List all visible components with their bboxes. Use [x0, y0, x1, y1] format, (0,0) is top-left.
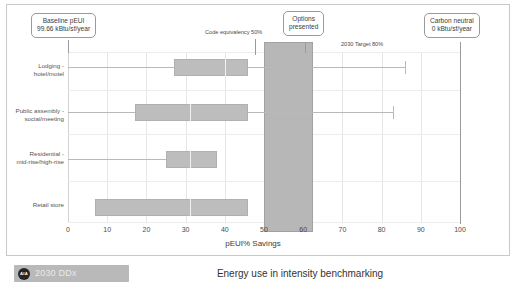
x-tick-label-30: 30: [182, 226, 190, 233]
gridline-90: [421, 52, 422, 222]
gridline-40: [225, 52, 226, 222]
category-label-assembly: Public assembly - social/meeting: [2, 107, 64, 122]
x-tick-label-60: 60: [299, 226, 307, 233]
aia-logo-icon: AIA: [18, 268, 30, 280]
chart-card-frame: [6, 4, 510, 256]
median-line: [225, 59, 226, 76]
callout-options-presented: Options presented: [283, 11, 324, 36]
category-label-lodging-line2: hotel/motel: [2, 70, 64, 78]
callout-baseline-line2: 99.66 kBtu/sf/year: [37, 25, 90, 33]
gridline-20: [146, 52, 147, 222]
box-retail: [95, 199, 248, 216]
x-tick-label-70: 70: [338, 226, 346, 233]
category-label-retail-line1: Retail store: [2, 201, 64, 209]
x-tick-label-20: 20: [142, 226, 150, 233]
category-label-residential-line1: Residential -: [2, 150, 64, 158]
x-tick-label-50: 50: [260, 226, 268, 233]
x-tick-label-90: 90: [417, 226, 425, 233]
callout-carbon-line2: 0 kBtu/sf/year: [430, 25, 474, 33]
box-residential: [166, 151, 217, 168]
category-label-assembly-line2: social/meeting: [2, 115, 64, 123]
callout-carbon-neutral: Carbon neutral 0 kBtu/sf/year: [424, 13, 480, 38]
category-label-retail: Retail store: [2, 201, 64, 209]
category-label-lodging: Lodging - hotel/motel: [2, 62, 64, 77]
whisker-cap-high: [393, 106, 394, 119]
x-axis-title-text: pEUI% Savings: [225, 239, 281, 248]
leader-baseline: [68, 40, 69, 53]
gridline-70: [342, 52, 343, 222]
gridline-10: [107, 52, 108, 222]
gridline-80: [382, 52, 383, 222]
category-label-lodging-line1: Lodging -: [2, 62, 64, 70]
highlight-band-options-presented: [264, 42, 313, 232]
median-line: [190, 151, 191, 168]
x-tick-label-80: 80: [378, 226, 386, 233]
badge-label: 2030 DDx: [35, 268, 77, 278]
chart-screenshot: Lodging - hotel/motel Public assembly - …: [0, 0, 518, 302]
median-line: [190, 199, 191, 216]
callout-options-line2: presented: [289, 23, 318, 31]
x-axis-title: pEUI% Savings: [0, 239, 518, 248]
box-lodging: [174, 59, 248, 76]
category-label-residential-line2: mid-rise/high-rise: [2, 158, 64, 166]
category-axis-labels: Lodging - hotel/motel Public assembly - …: [0, 0, 64, 302]
x-tick-label-0: 0: [66, 226, 70, 233]
annotation-code-equivalency: Code equivalency 50%: [205, 29, 262, 35]
callout-carbon-line1: Carbon neutral: [430, 17, 474, 25]
leader-carbon-neutral: [460, 42, 461, 224]
callout-baseline-line1: Baseline pEUI: [37, 17, 90, 25]
box-public: [135, 104, 249, 121]
leader-options-presented: [305, 42, 306, 53]
chart-footer-title: Energy use in intensity benchmarking: [150, 268, 450, 279]
callout-baseline-peui: Baseline pEUI 99.66 kBtu/sf/year: [31, 13, 96, 38]
gridline-30: [186, 52, 187, 222]
aia-2030-ddx-badge: AIA 2030 DDx: [14, 265, 129, 282]
category-label-assembly-line1: Public assembly -: [2, 107, 64, 115]
median-line: [190, 104, 191, 121]
category-label-residential: Residential - mid-rise/high-rise: [2, 150, 64, 165]
whisker-cap-high: [405, 61, 406, 74]
callout-options-line1: Options: [289, 15, 318, 23]
annotation-2030-target: 2030 Target 80%: [341, 41, 383, 47]
aia-logo-text: AIA: [18, 268, 30, 280]
leader-code-equivalency: [255, 39, 256, 55]
x-tick-label-10: 10: [103, 226, 111, 233]
gridline-0: [68, 52, 69, 222]
x-tick-label-40: 40: [221, 226, 229, 233]
x-tick-label-100: 100: [454, 226, 466, 233]
